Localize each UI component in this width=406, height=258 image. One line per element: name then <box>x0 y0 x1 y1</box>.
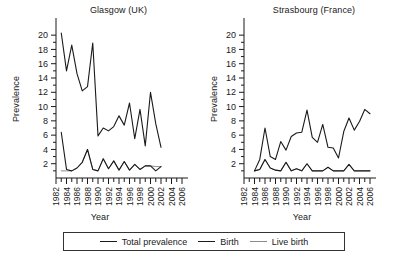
y-tick-label: 8 <box>231 116 236 126</box>
x-tick-label: 1994 <box>302 187 312 206</box>
x-tick-label: 2004 <box>355 187 365 206</box>
x-tick-label: 2000 <box>334 187 344 206</box>
y-tick-label: 6 <box>43 130 48 140</box>
x-tick-label: 1988 <box>271 187 281 206</box>
legend-label: Live birth <box>272 237 309 247</box>
series-line <box>255 109 371 170</box>
plot-area-strasbourg: 2468101214161820198219841986198819901992… <box>200 0 406 220</box>
chart-panel-strasbourg: Strasbourg (France) Prevalence 246810121… <box>200 0 406 220</box>
legend-label: Total prevalence <box>122 237 188 247</box>
legend: Total prevalenceBirthLive birth <box>63 232 345 251</box>
y-tick-label: 18 <box>38 45 48 55</box>
legend-label: Birth <box>220 237 239 247</box>
x-tick-label: 1996 <box>125 187 135 206</box>
x-tick-label: 1998 <box>323 187 333 206</box>
x-tick-label: 2004 <box>167 187 177 206</box>
legend-line-swatch <box>198 241 215 242</box>
chart-panel-glasgow: Glasgow (UK) Prevalence 2468101214161820… <box>0 0 203 220</box>
plot-area-glasgow: 2468101214161820198219841986198819901992… <box>0 0 203 220</box>
x-tick-label: 1994 <box>114 187 124 206</box>
x-tick-label: 1986 <box>260 187 270 206</box>
y-tick-label: 18 <box>226 45 236 55</box>
legend-item: Total prevalence <box>100 237 188 247</box>
x-tick-label: 1988 <box>83 187 93 206</box>
y-tick-label: 20 <box>38 30 48 40</box>
y-tick-label: 8 <box>43 116 48 126</box>
x-tick-label: 1990 <box>93 187 103 206</box>
legend-line-swatch <box>250 241 267 242</box>
legend-item: Birth <box>198 237 239 247</box>
x-tick-label: 2002 <box>344 187 354 206</box>
y-tick-label: 12 <box>38 87 48 97</box>
y-tick-label: 20 <box>226 30 236 40</box>
x-tick-label: 1984 <box>62 187 72 206</box>
x-tick-label: 2002 <box>156 187 166 206</box>
series-line <box>61 33 161 147</box>
legend-line-swatch <box>100 241 117 242</box>
y-tick-label: 2 <box>231 159 236 169</box>
series-line <box>61 149 161 170</box>
x-tick-label: 1982 <box>239 187 249 206</box>
legend-item: Live birth <box>250 237 309 247</box>
x-tick-label: 1984 <box>250 187 260 206</box>
y-tick-label: 16 <box>226 59 236 69</box>
y-tick-label: 12 <box>226 87 236 97</box>
y-tick-label: 4 <box>43 145 48 155</box>
x-tick-label: 2000 <box>146 187 156 206</box>
x-axis-label-strasbourg: Year <box>262 212 342 222</box>
y-tick-label: 16 <box>38 59 48 69</box>
y-tick-label: 14 <box>38 73 48 83</box>
x-tick-label: 1982 <box>51 187 61 206</box>
prevalence-figure: Glasgow (UK) Prevalence 2468101214161820… <box>0 0 406 258</box>
x-tick-label: 1990 <box>281 187 291 206</box>
x-tick-label: 2006 <box>365 187 375 206</box>
y-tick-label: 10 <box>38 102 48 112</box>
x-tick-label: 1992 <box>104 187 114 206</box>
x-tick-label: 1998 <box>135 187 145 206</box>
y-tick-label: 6 <box>231 130 236 140</box>
x-tick-label: 1996 <box>313 187 323 206</box>
x-axis-label-glasgow: Year <box>60 212 140 222</box>
y-tick-label: 4 <box>231 145 236 155</box>
y-tick-label: 2 <box>43 159 48 169</box>
x-tick-label: 1986 <box>72 187 82 206</box>
y-tick-label: 14 <box>226 73 236 83</box>
y-tick-label: 10 <box>226 102 236 112</box>
series-line <box>255 159 371 170</box>
x-tick-label: 1992 <box>292 187 302 206</box>
x-tick-label: 2006 <box>177 187 187 206</box>
